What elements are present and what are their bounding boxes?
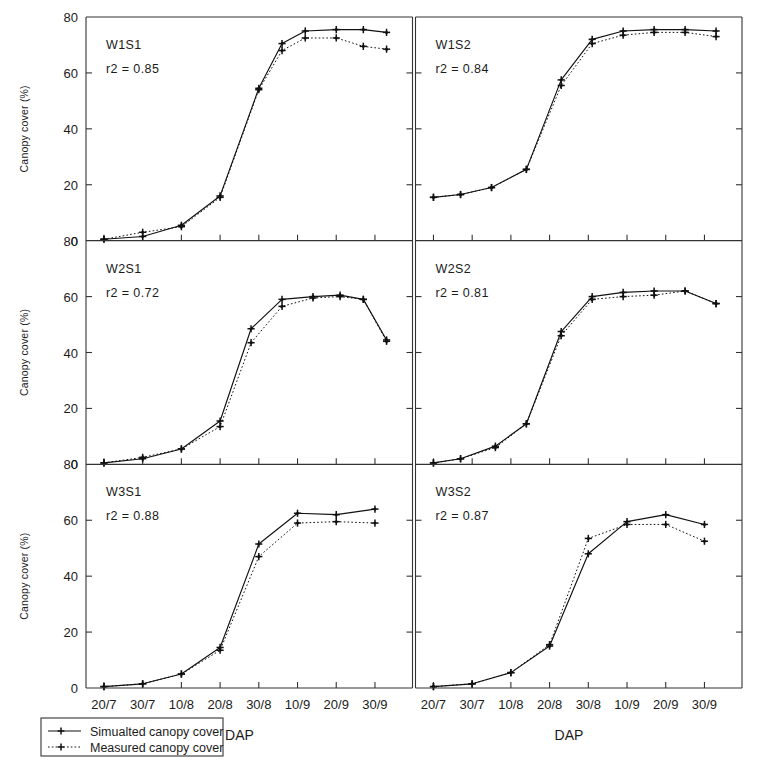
marker-dot xyxy=(587,537,590,540)
y-tick-label: 60 xyxy=(64,290,78,305)
marker-dot xyxy=(219,649,222,652)
marker-dot xyxy=(335,513,338,516)
marker-dot xyxy=(312,296,315,299)
marker-dot xyxy=(432,196,435,199)
y-tick-label: 20 xyxy=(64,178,78,193)
marker-dot xyxy=(591,298,594,301)
legend-simulated-label: Simualted canopy cover xyxy=(90,725,223,739)
marker-dot xyxy=(362,28,365,31)
x-tick-label: 20/9 xyxy=(653,697,678,712)
marker-dot xyxy=(459,457,462,460)
marker-dot xyxy=(180,225,183,228)
marker-dot xyxy=(257,88,260,91)
marker-dot xyxy=(560,84,563,87)
y-axis-title: Canopy cover (%) xyxy=(18,309,30,396)
marker-dot xyxy=(494,446,497,449)
y-tick-label: 0 xyxy=(71,681,78,696)
marker-dot xyxy=(373,522,376,525)
y-tick-label: 20 xyxy=(64,401,78,416)
marker-dot xyxy=(362,298,365,301)
panel-r2-label: r2 = 0.72 xyxy=(106,286,159,300)
y-tick-label: 80 xyxy=(64,234,78,249)
marker-dot xyxy=(703,540,706,543)
marker-dot xyxy=(385,48,388,51)
panel-name-label: W2S2 xyxy=(436,262,472,276)
marker-dot xyxy=(684,31,687,34)
marker-dot xyxy=(362,45,365,48)
marker-dot xyxy=(296,522,299,525)
x-tick-label: 30/7 xyxy=(130,697,155,712)
panel-r2-label: r2 = 0.84 xyxy=(436,62,489,76)
x-tick-label: 20/7 xyxy=(421,697,446,712)
marker-dot xyxy=(141,682,144,685)
marker-dot xyxy=(141,231,144,234)
marker-dot xyxy=(587,552,590,555)
x-tick-label: 10/8 xyxy=(169,697,194,712)
x-tick-label: 30/7 xyxy=(460,697,485,712)
marker-dot xyxy=(281,305,284,308)
panel-name-label: W2S1 xyxy=(106,262,142,276)
y-tick-label: 40 xyxy=(64,569,78,584)
marker-dot xyxy=(715,29,718,32)
x-tick-label: 30/8 xyxy=(246,697,271,712)
marker-dot xyxy=(180,673,183,676)
y-tick-label: 40 xyxy=(64,346,78,361)
marker-dot xyxy=(703,523,706,526)
marker-dot xyxy=(281,42,284,45)
x-tick-label: 30/9 xyxy=(362,697,387,712)
panel-name-label: W1S1 xyxy=(106,38,142,52)
panel-r2-label: r2 = 0.81 xyxy=(436,286,489,300)
marker-dot xyxy=(471,682,474,685)
marker-dot xyxy=(622,34,625,37)
x-tick-label: 20/8 xyxy=(537,697,562,712)
marker-dot xyxy=(219,196,222,199)
marker-dot xyxy=(281,49,284,52)
marker-dot xyxy=(664,513,667,516)
y-tick-label: 20 xyxy=(64,625,78,640)
marker-dot xyxy=(385,31,388,34)
panel-r2-label: r2 = 0.88 xyxy=(106,509,159,523)
marker-dot xyxy=(335,520,338,523)
y-tick-label: 40 xyxy=(64,122,78,137)
x-tick-label: 30/8 xyxy=(576,697,601,712)
marker-dot xyxy=(525,168,528,171)
panel-r2-label: r2 = 0.85 xyxy=(106,62,159,76)
marker-dot xyxy=(591,42,594,45)
marker-dot xyxy=(653,31,656,34)
marker-dot xyxy=(250,341,253,344)
marker-dot xyxy=(335,28,338,31)
marker-dot xyxy=(335,36,338,39)
marker-dot xyxy=(509,671,512,674)
x-axis-title: DAP xyxy=(555,727,584,743)
marker-dot xyxy=(180,447,183,450)
marker-dot xyxy=(560,78,563,81)
x-tick-label: 10/9 xyxy=(614,697,639,712)
marker-dot xyxy=(339,295,342,298)
marker-dot xyxy=(219,419,222,422)
y-tick-label: 80 xyxy=(64,457,78,472)
panel-name-label: W3S2 xyxy=(436,485,472,499)
figure-canvas: 020406080W1S1r2 = 0.85W1S2r2 = 0.8402040… xyxy=(0,0,760,784)
x-tick-label: 30/9 xyxy=(692,697,717,712)
x-tick-label: 10/9 xyxy=(285,697,310,712)
marker-dot xyxy=(296,512,299,515)
figure-background xyxy=(0,0,760,784)
y-tick-label: 60 xyxy=(64,66,78,81)
marker-dot xyxy=(385,340,388,343)
marker-dot xyxy=(548,643,551,646)
x-tick-label: 20/7 xyxy=(91,697,116,712)
marker-dot xyxy=(250,327,253,330)
marker-dot xyxy=(715,35,718,38)
y-tick-label: 80 xyxy=(64,10,78,25)
marker-dot xyxy=(257,555,260,558)
marker-dot xyxy=(622,295,625,298)
marker-dot xyxy=(715,302,718,305)
marker-dot xyxy=(281,298,284,301)
x-tick-label: 20/9 xyxy=(324,697,349,712)
x-tick-label: 10/8 xyxy=(498,697,523,712)
marker-dot xyxy=(141,456,144,459)
marker-dot xyxy=(626,523,629,526)
marker-dot xyxy=(373,508,376,511)
marker-dot xyxy=(304,36,307,39)
marker-dot xyxy=(684,289,687,292)
